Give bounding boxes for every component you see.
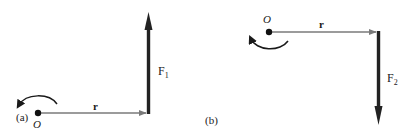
panel-b: O r F2 (b) (205, 13, 398, 127)
force-label-f1: F1 (158, 64, 169, 80)
origin-label-b: O (263, 13, 271, 25)
origin-point-a (35, 110, 41, 116)
r-label-a: r (93, 100, 98, 112)
clockwise-rotation-icon (251, 39, 288, 49)
force-vector-f2 (375, 31, 383, 125)
origin-label-a: O (33, 118, 41, 130)
r-label-b: r (319, 18, 324, 30)
torque-diagram: (a) O r F1 O r F2 (b) (0, 0, 403, 134)
force-label-f2: F2 (387, 71, 398, 87)
panel-label-b: (b) (205, 114, 218, 127)
panel-label-a: (a) (16, 111, 29, 124)
panel-a: (a) O r F1 (16, 12, 169, 130)
counterclockwise-rotation-icon (19, 96, 57, 105)
force-vector-f1 (145, 12, 153, 114)
origin-point-b (266, 29, 272, 35)
